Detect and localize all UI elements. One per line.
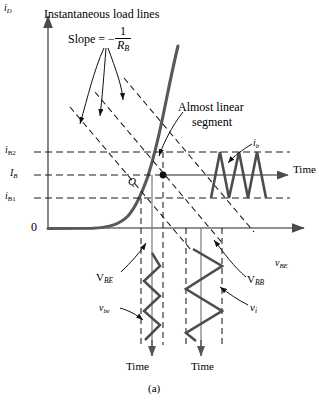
figure-caption: (a) <box>148 383 160 394</box>
ib-waveform-label: ib <box>253 138 259 150</box>
leader-arrow-loadline-3 <box>108 48 123 100</box>
leader-arrow-loadline-2 <box>100 48 106 116</box>
exponential-characteristic-curve <box>48 46 178 229</box>
slope-denominator: RB <box>115 39 131 54</box>
vi-vertical-waveform <box>186 249 222 341</box>
instantaneous-load-lines-title: Instantaneous load lines <box>44 8 159 20</box>
origin-label: 0 <box>31 221 37 233</box>
leader-arrows-load-lines <box>80 48 123 124</box>
time-label-bottom-left: Time <box>126 361 149 372</box>
leader-arrow-VBB <box>214 240 246 277</box>
almost-linear-label-line2: segment <box>192 116 232 128</box>
slope-annotation: Slope = −1RB <box>68 25 131 53</box>
x-axis-label: vBE <box>275 258 288 270</box>
VBE-label: VBE <box>96 272 113 285</box>
figure-graphics <box>0 0 319 404</box>
vi-label: vi <box>250 302 257 315</box>
time-label-right: Time <box>293 164 316 175</box>
vbe-small-signal-label: vbe <box>99 303 110 315</box>
y-axis-label: iD <box>4 3 12 15</box>
current-level-label-ib1: iB1 <box>5 191 16 203</box>
time-label-bottom-right: Time <box>191 361 214 372</box>
current-level-label-IB: IB <box>10 168 18 180</box>
q-point-label: Q <box>128 176 136 187</box>
current-level-label-ib2: iB2 <box>5 145 16 157</box>
VBB-label: VBB <box>247 274 264 287</box>
vertical-projection-lines <box>141 152 222 345</box>
leader-arrow-vbe-small <box>120 308 143 320</box>
q-point-marker <box>160 172 167 179</box>
almost-linear-label-line1: Almost linear <box>178 101 244 113</box>
slope-numerator: 1 <box>115 25 131 39</box>
leader-arrow-VBE <box>121 243 146 272</box>
leader-arrow-vi <box>220 287 248 305</box>
transistor-load-line-figure: iD vBE Time Instantaneous load lines Slo… <box>0 0 319 404</box>
